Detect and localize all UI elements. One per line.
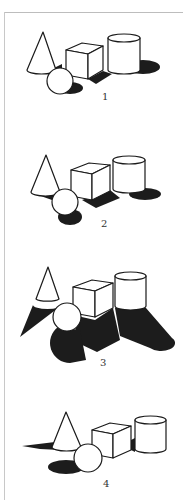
panel-2: 2	[31, 155, 161, 229]
panel-label-3: 3	[100, 357, 106, 368]
sphere	[52, 189, 78, 215]
cylinder-shadow	[115, 308, 175, 351]
panel-label-1: 1	[102, 91, 108, 102]
sphere	[53, 303, 81, 331]
cone	[36, 267, 59, 301]
sphere	[47, 68, 73, 94]
cylinder	[108, 34, 140, 74]
panel-label-4: 4	[103, 478, 109, 489]
cube	[66, 43, 103, 79]
panel-label-2: 2	[101, 218, 107, 229]
cube	[71, 163, 110, 200]
cylinder	[115, 272, 146, 310]
cylinder	[135, 416, 166, 453]
geometric-shapes-illustration: 1 2	[0, 0, 183, 500]
cone	[27, 32, 56, 74]
sphere	[74, 444, 102, 472]
cylinder	[113, 156, 145, 193]
panel-4: 4	[22, 412, 166, 489]
cone	[52, 412, 81, 451]
cone	[31, 155, 60, 196]
panel-3: 3	[20, 267, 175, 368]
panel-1: 1	[27, 32, 160, 102]
